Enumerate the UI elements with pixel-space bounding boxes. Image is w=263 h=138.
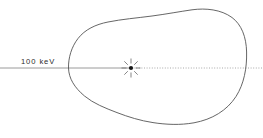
source-point-dot <box>129 66 133 70</box>
radiation-isodose-figure: 100 keV <box>0 0 263 138</box>
figure-canvas: 100 keV <box>0 0 263 138</box>
isodose-contour-curve <box>68 9 246 124</box>
energy-label: 100 keV <box>21 57 55 66</box>
